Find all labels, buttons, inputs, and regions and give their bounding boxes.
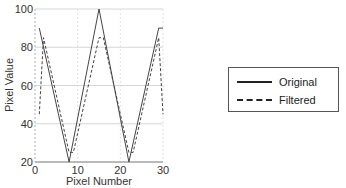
legend-item-filtered: Filtered xyxy=(237,93,316,107)
y-tick-label: 40 xyxy=(21,118,33,130)
x-tick-label: 0 xyxy=(32,164,38,176)
y-axis-label: Pixel Value xyxy=(3,58,15,112)
dashed-line-icon xyxy=(237,99,272,101)
y-tick-label: 100 xyxy=(15,3,33,15)
x-axis-label: Pixel Number xyxy=(66,175,132,187)
y-tick-label: 60 xyxy=(21,80,33,92)
solid-line-icon xyxy=(237,81,272,83)
series-filtered xyxy=(39,38,163,153)
legend-item-original: Original xyxy=(237,75,317,89)
tick-labels: 204060801000102030 xyxy=(15,3,169,176)
legend: Original Filtered xyxy=(228,67,339,112)
legend-label: Original xyxy=(279,76,317,88)
legend-label: Filtered xyxy=(279,94,316,106)
x-tick-label: 30 xyxy=(157,164,169,176)
y-tick-label: 80 xyxy=(21,41,33,53)
